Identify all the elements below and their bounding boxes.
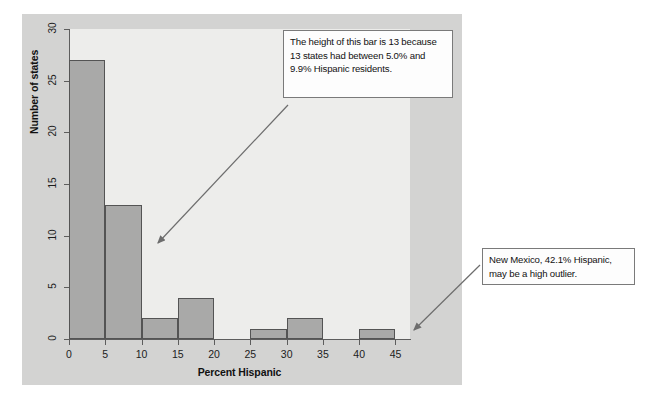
histogram-bar xyxy=(359,329,395,339)
y-tick-label: 25 xyxy=(48,73,58,87)
chart-page: Number of states Percent Hispanic 051015… xyxy=(0,0,649,399)
y-tick-label: 10 xyxy=(48,228,58,242)
y-tick-label: 0 xyxy=(48,331,58,345)
x-tick-label: 35 xyxy=(311,349,335,360)
x-tick-label: 40 xyxy=(347,349,371,360)
x-tick-label: 5 xyxy=(93,349,117,360)
histogram-bar xyxy=(250,329,286,339)
x-tick-label: 0 xyxy=(57,349,81,360)
x-tick-label: 20 xyxy=(202,349,226,360)
x-tick-label: 45 xyxy=(383,349,407,360)
y-tick-label: 15 xyxy=(48,176,58,190)
x-tick-mark xyxy=(359,340,360,345)
y-tick-label: 5 xyxy=(48,279,58,293)
histogram-bar xyxy=(105,205,141,339)
y-tick-label: 30 xyxy=(48,21,58,35)
x-tick-mark xyxy=(69,340,70,345)
x-tick-label: 15 xyxy=(166,349,190,360)
x-tick-label: 10 xyxy=(130,349,154,360)
x-tick-label: 25 xyxy=(238,349,262,360)
y-tick-mark xyxy=(64,29,69,30)
x-tick-mark xyxy=(105,340,106,345)
histogram-bar xyxy=(287,318,323,339)
x-axis-title: Percent Hispanic xyxy=(69,366,410,378)
x-tick-label: 30 xyxy=(275,349,299,360)
annotation-bar-height: The height of this bar is 13 because 13 … xyxy=(283,30,453,98)
x-tick-mark xyxy=(395,340,396,345)
x-tick-mark xyxy=(323,340,324,345)
y-tick-label: 20 xyxy=(48,124,58,138)
histogram-bar xyxy=(142,318,178,339)
x-tick-mark xyxy=(178,340,179,345)
annotation-outlier: New Mexico, 42.1% Hispanic, may be a hig… xyxy=(482,248,635,285)
histogram-bar xyxy=(178,298,214,339)
histogram-bar xyxy=(69,60,105,339)
x-tick-mark xyxy=(250,340,251,345)
y-axis-title: Number of states xyxy=(28,50,40,134)
x-tick-mark xyxy=(287,340,288,345)
x-tick-mark xyxy=(142,340,143,345)
x-tick-mark xyxy=(214,340,215,345)
